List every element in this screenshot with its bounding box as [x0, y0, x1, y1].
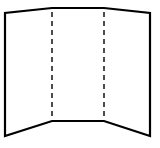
tri-fold-board-drawing — [0, 0, 160, 148]
tri-fold-board-diagram — [0, 0, 160, 148]
right-panel — [104, 8, 150, 136]
left-panel — [5, 8, 52, 136]
board-panels — [5, 8, 150, 136]
center-panel — [52, 8, 104, 121]
